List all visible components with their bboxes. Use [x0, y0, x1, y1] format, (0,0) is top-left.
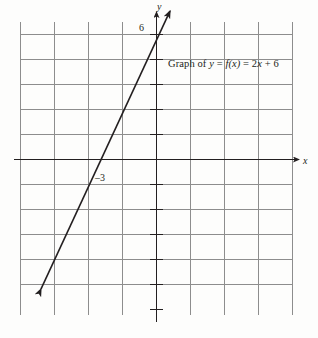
x-intercept-tick-label: –3 [95, 172, 105, 183]
equation-caption: Graph of y = f(x) = 2x + 6 [168, 58, 279, 69]
caption-prefix: Graph of [168, 58, 209, 69]
y-axis-label: y [157, 1, 161, 12]
caption-equals-1: = [214, 58, 225, 69]
y-intercept-tick-label: 6 [139, 22, 144, 33]
caption-equals-2: = 2 [240, 58, 257, 69]
x-axis-label: x [303, 155, 307, 166]
graph-figure: y x 6 –3 Graph of y = f(x) = 2x + 6 [0, 0, 318, 338]
caption-tail: + 6 [262, 58, 279, 69]
function-line [41, 11, 170, 289]
caption-function-arg: (x) [228, 58, 240, 69]
coordinate-plane [0, 0, 318, 338]
